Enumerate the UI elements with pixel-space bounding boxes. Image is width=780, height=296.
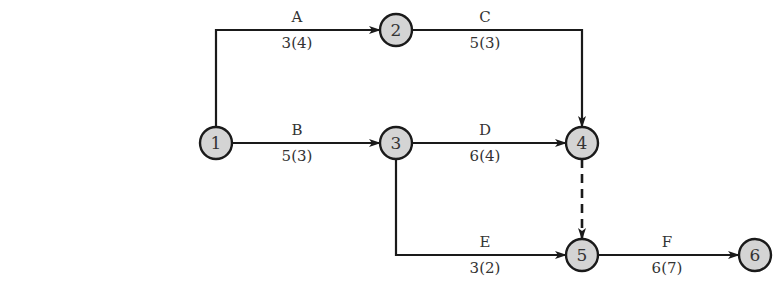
node-5: 5: [566, 239, 598, 271]
activity-b: B 5(3): [232, 121, 380, 165]
activity-f: F 6(7): [598, 233, 739, 277]
node-4: 4: [566, 127, 598, 159]
activity-f-name: F: [662, 233, 672, 251]
activity-d: D 6(4): [412, 121, 566, 165]
node-1-label: 1: [211, 133, 222, 153]
node-2: 2: [380, 14, 412, 46]
activity-a: A 3(4): [216, 8, 380, 127]
activity-a-name: A: [291, 8, 303, 26]
activity-f-duration: 6(7): [652, 259, 683, 277]
node-6-label: 6: [750, 245, 761, 265]
activity-e-name: E: [480, 233, 491, 251]
activity-e: E 3(2): [396, 159, 566, 277]
activity-b-duration: 5(3): [282, 147, 313, 165]
node-5-label: 5: [577, 245, 588, 265]
node-1: 1: [200, 127, 232, 159]
network-diagram: A 3(4) B 5(3) C 5(3) D 6(4) E 3(2) F 6(7…: [0, 0, 780, 296]
activity-d-duration: 6(4): [470, 147, 501, 165]
activity-e-duration: 3(2): [470, 259, 501, 277]
node-3-label: 3: [391, 133, 402, 153]
node-3: 3: [380, 127, 412, 159]
node-6: 6: [739, 239, 771, 271]
node-2-label: 2: [391, 20, 402, 40]
activity-c: C 5(3): [412, 8, 582, 127]
activity-c-duration: 5(3): [470, 34, 501, 52]
activity-a-duration: 3(4): [282, 34, 313, 52]
activity-c-name: C: [479, 8, 490, 26]
activity-d-name: D: [479, 121, 491, 139]
node-4-label: 4: [577, 133, 588, 153]
activity-b-name: B: [291, 121, 302, 139]
